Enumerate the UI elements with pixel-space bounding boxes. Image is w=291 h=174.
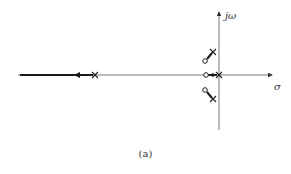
real-axis-label: σ	[274, 81, 282, 92]
figure-caption: (a)	[0, 148, 291, 159]
locus-arrow-origin	[210, 73, 214, 78]
zero-upper	[203, 59, 208, 64]
pole-upper	[210, 49, 216, 55]
zero-lower	[203, 88, 208, 93]
zero-real	[204, 73, 209, 78]
imag-axis-label: jω	[223, 10, 236, 21]
locus-arrow-left	[74, 72, 80, 78]
pole-lower	[210, 96, 216, 102]
